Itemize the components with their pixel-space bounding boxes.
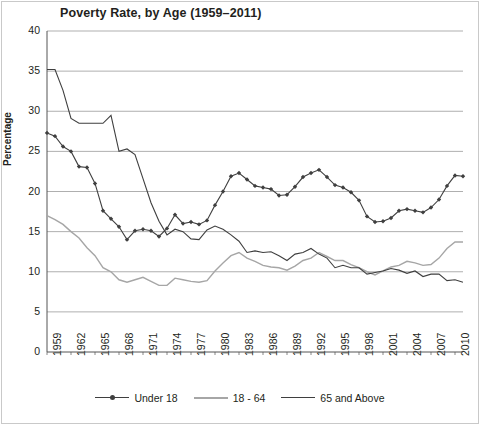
legend-label-18-64: 18 - 64: [233, 392, 266, 404]
series-marker: [197, 222, 201, 226]
legend-swatch-18-64: [194, 393, 228, 403]
series-marker: [85, 165, 89, 169]
legend-swatch-under-18: [95, 393, 129, 403]
poverty-rate-chart: Poverty Rate, by Age (1959–2011) Percent…: [0, 0, 480, 425]
series-marker: [461, 174, 465, 178]
legend-item-65-and-above: 65 and Above: [281, 392, 384, 404]
series-marker: [45, 131, 49, 135]
series-marker: [229, 174, 233, 178]
series-marker: [309, 171, 313, 175]
series-line: [47, 70, 463, 283]
plot-area: [0, 0, 480, 425]
series-marker: [213, 203, 217, 207]
legend-swatch-65-and-above: [281, 393, 315, 403]
legend-item-18-64: 18 - 64: [194, 392, 266, 404]
series-marker: [93, 181, 97, 185]
series-marker: [141, 227, 145, 231]
chart-legend: Under 18 18 - 64 65 and Above: [0, 392, 480, 404]
series-marker: [381, 219, 385, 223]
legend-label-under-18: Under 18: [134, 392, 177, 404]
series-marker: [413, 209, 417, 213]
legend-label-65-and-above: 65 and Above: [320, 392, 384, 404]
series-marker: [205, 218, 209, 222]
series-marker: [261, 185, 265, 189]
series-marker: [189, 220, 193, 224]
legend-item-under-18: Under 18: [95, 392, 177, 404]
series-marker: [77, 164, 81, 168]
series-marker: [405, 207, 409, 211]
